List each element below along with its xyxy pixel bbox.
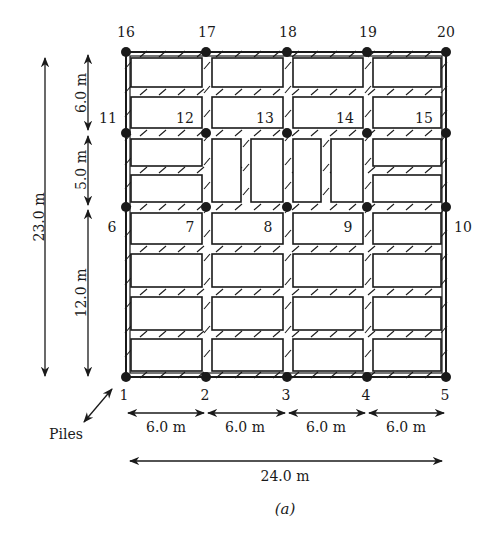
hatch-mark bbox=[204, 62, 210, 69]
slab-panel bbox=[373, 139, 441, 166]
hatch-mark bbox=[140, 289, 147, 295]
pile-17 bbox=[201, 47, 211, 57]
hatch-mark bbox=[285, 350, 291, 357]
hatch-mark bbox=[235, 204, 242, 210]
hatch-mark bbox=[365, 182, 371, 189]
pile-label-9: 9 bbox=[344, 219, 353, 235]
hatch-mark bbox=[330, 289, 337, 295]
hatch-mark bbox=[311, 130, 318, 136]
pile-label-7: 7 bbox=[186, 219, 195, 235]
hatch-mark bbox=[178, 331, 185, 337]
pile-16 bbox=[121, 47, 131, 57]
hatch-mark bbox=[285, 158, 291, 165]
pile-label-3: 3 bbox=[282, 387, 291, 403]
pile-20 bbox=[441, 47, 451, 57]
pile-6 bbox=[121, 202, 131, 212]
hatch-mark bbox=[285, 278, 291, 285]
slab-panel bbox=[212, 139, 241, 202]
hatch-mark bbox=[425, 130, 432, 136]
hatch-mark bbox=[285, 302, 291, 309]
hatch-mark bbox=[387, 89, 394, 95]
hatch-mark bbox=[235, 289, 242, 295]
hatch-mark bbox=[292, 89, 299, 95]
pile-18 bbox=[282, 47, 292, 57]
slab-panel bbox=[293, 339, 363, 371]
hatch-mark bbox=[330, 246, 337, 252]
hatch-mark bbox=[323, 140, 329, 147]
hatch-mark bbox=[365, 230, 371, 237]
hatch-mark bbox=[425, 89, 432, 95]
hatch-mark bbox=[235, 331, 242, 337]
hatch-mark bbox=[292, 204, 299, 210]
hatch-mark bbox=[216, 331, 223, 337]
slab-panel bbox=[373, 213, 441, 244]
hatch-mark bbox=[204, 254, 210, 261]
hatch-mark bbox=[216, 204, 223, 210]
hatch-mark bbox=[425, 204, 432, 210]
hatch-mark bbox=[406, 130, 413, 136]
hatch-mark bbox=[285, 230, 291, 237]
slab-panel bbox=[131, 139, 202, 166]
pile-7 bbox=[201, 202, 211, 212]
hatch-mark bbox=[273, 331, 280, 337]
hatch-mark bbox=[159, 289, 166, 295]
hatch-mark bbox=[349, 289, 356, 295]
slab-panel bbox=[212, 339, 283, 371]
pile-9 bbox=[362, 202, 372, 212]
hatch-mark bbox=[365, 278, 371, 285]
slab-panel bbox=[293, 58, 363, 87]
hatch-mark bbox=[285, 110, 291, 117]
pile-label-1: 1 bbox=[120, 387, 129, 403]
hatch-mark bbox=[204, 326, 210, 333]
hatch-mark bbox=[197, 331, 204, 337]
pile-4 bbox=[362, 372, 372, 382]
hatch-mark bbox=[330, 89, 337, 95]
hatch-mark bbox=[204, 278, 210, 285]
hatch-mark bbox=[254, 289, 261, 295]
hatch-mark bbox=[311, 204, 318, 210]
pile-label-15: 15 bbox=[415, 110, 433, 126]
hatch-mark bbox=[235, 89, 242, 95]
hatch-mark bbox=[159, 89, 166, 95]
pile-label-14: 14 bbox=[336, 110, 354, 126]
slab-panel bbox=[373, 58, 441, 87]
horizontal-dimension-label: 24.0 m bbox=[261, 468, 310, 484]
hatch-mark bbox=[330, 204, 337, 210]
pile-1 bbox=[121, 372, 131, 382]
hatch-mark bbox=[425, 167, 432, 173]
hatch-mark bbox=[197, 289, 204, 295]
hatch-mark bbox=[178, 89, 185, 95]
hatch-mark bbox=[178, 289, 185, 295]
piles-pointer: Piles bbox=[49, 389, 112, 442]
hatch-mark bbox=[349, 246, 356, 252]
hatch-mark bbox=[197, 167, 204, 173]
hatch-mark bbox=[204, 230, 210, 237]
pile-label-18: 18 bbox=[279, 24, 297, 40]
pile-2 bbox=[201, 372, 211, 382]
hatch-mark bbox=[243, 140, 249, 147]
slab-panel bbox=[212, 254, 283, 287]
pile-19 bbox=[362, 47, 372, 57]
pile-label-6: 6 bbox=[108, 219, 117, 235]
hatch-mark bbox=[292, 289, 299, 295]
hatch-mark bbox=[365, 86, 371, 93]
hatch-mark bbox=[285, 254, 291, 261]
hatch-mark bbox=[197, 89, 204, 95]
slab-panel bbox=[293, 213, 363, 244]
pile-label-8: 8 bbox=[264, 219, 273, 235]
piles-pointer-arrow bbox=[84, 389, 112, 422]
hatch-mark bbox=[311, 331, 318, 337]
pile-label-4: 4 bbox=[362, 387, 371, 403]
hatch-mark bbox=[159, 204, 166, 210]
slab-panels bbox=[131, 58, 441, 371]
hatch-mark bbox=[349, 130, 356, 136]
hatch-mark bbox=[204, 350, 210, 357]
slab-panel bbox=[131, 297, 202, 330]
pile-label-2: 2 bbox=[201, 387, 210, 403]
hatch-mark bbox=[349, 89, 356, 95]
hatch-mark bbox=[140, 204, 147, 210]
hatch-mark bbox=[292, 331, 299, 337]
hatch-mark bbox=[368, 331, 375, 337]
hatch-mark bbox=[273, 204, 280, 210]
hatch-mark bbox=[204, 158, 210, 165]
